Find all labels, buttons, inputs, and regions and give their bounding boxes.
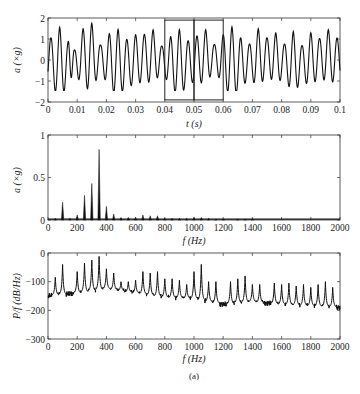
spectrum-peaks bbox=[48, 149, 340, 220]
y-tick-label: 0 bbox=[40, 216, 45, 226]
y-tick-label: 0 bbox=[40, 249, 45, 259]
x-tick-label: 0 bbox=[46, 223, 51, 233]
x-tick-label: 2000 bbox=[331, 342, 350, 352]
y-tick-label: −200 bbox=[25, 306, 45, 316]
x-tick-label: 400 bbox=[99, 223, 114, 233]
x-axis-label: f (Hz) bbox=[182, 235, 206, 247]
y-tick-label: −100 bbox=[25, 277, 45, 287]
spectrum-peak bbox=[113, 214, 115, 220]
y-axis-label: a (×g) bbox=[11, 46, 23, 73]
x-tick-label: 1400 bbox=[243, 342, 262, 352]
x-tick-label: 600 bbox=[128, 223, 143, 233]
y-tick-label: 1 bbox=[40, 35, 45, 45]
spectrum-peak bbox=[186, 218, 188, 220]
x-tick-label: 800 bbox=[158, 342, 173, 352]
amplitude-spectrum-plot: 020040060080010001200140016001800200000.… bbox=[11, 131, 350, 248]
spectrum-peak bbox=[171, 218, 173, 220]
y-tick-label: 0 bbox=[40, 56, 45, 66]
spectrum-peak bbox=[76, 215, 78, 220]
x-axis-label: t (s) bbox=[186, 118, 203, 130]
spectrum-peak bbox=[142, 215, 144, 220]
y-tick-label: −300 bbox=[25, 335, 45, 345]
figure: 00.010.020.030.040.050.060.070.080.090.1… bbox=[0, 0, 360, 394]
x-tick-label: 1000 bbox=[185, 223, 204, 233]
x-tick-label: 0.09 bbox=[302, 105, 319, 115]
spectrum-peak bbox=[91, 183, 93, 220]
y-axis-label: P/f (dB/Hz) bbox=[11, 272, 23, 319]
spectrum-peak bbox=[134, 217, 136, 220]
x-tick-label: 0.08 bbox=[273, 105, 290, 115]
x-tick-label: 0.01 bbox=[69, 105, 86, 115]
x-tick-label: 0.04 bbox=[156, 105, 173, 115]
x-tick-label: 0 bbox=[46, 342, 51, 352]
y-tick-label: −1 bbox=[35, 77, 45, 87]
y-axis-label: a (×g) bbox=[11, 166, 23, 193]
x-tick-label: 200 bbox=[70, 223, 85, 233]
x-axis-label: f (Hz) bbox=[182, 353, 206, 365]
x-tick-label: 0.07 bbox=[244, 105, 261, 115]
x-tick-label: 2000 bbox=[331, 223, 350, 233]
x-tick-label: 1200 bbox=[214, 342, 233, 352]
x-tick-label: 0.05 bbox=[186, 105, 203, 115]
x-tick-label: 1400 bbox=[243, 223, 262, 233]
x-tick-label: 0.06 bbox=[215, 105, 232, 115]
spectrum-peak bbox=[127, 217, 129, 220]
y-tick-label: 0.5 bbox=[33, 173, 45, 183]
spectrum-peak bbox=[193, 217, 195, 220]
x-tick-label: 400 bbox=[99, 342, 114, 352]
x-tick-label: 600 bbox=[128, 342, 143, 352]
x-tick-label: 800 bbox=[158, 223, 173, 233]
x-tick-label: 1800 bbox=[301, 342, 320, 352]
spectrum-peak bbox=[149, 216, 151, 220]
highlight-windows bbox=[165, 20, 223, 100]
psd-plot: 0200400600800100012001400160018002000−30… bbox=[11, 249, 350, 366]
x-tick-label: 1200 bbox=[214, 223, 233, 233]
spectrum-peak bbox=[178, 218, 180, 220]
x-tick-label: 1600 bbox=[272, 223, 291, 233]
x-tick-label: 200 bbox=[70, 342, 85, 352]
axis-ticks: 020040060080010001200140016001800200000.… bbox=[33, 131, 350, 234]
spectrum-peak bbox=[69, 218, 71, 220]
psd-line bbox=[48, 256, 340, 310]
y-tick-label: 2 bbox=[40, 14, 45, 24]
y-tick-label: −2 bbox=[35, 98, 45, 108]
x-tick-label: 0.03 bbox=[127, 105, 144, 115]
figure-caption: (a) bbox=[189, 371, 199, 381]
spectrum-peak bbox=[54, 218, 56, 220]
spectrum-peak bbox=[207, 218, 209, 220]
spectrum-peak bbox=[156, 216, 158, 220]
spectrum-peak bbox=[164, 218, 166, 220]
x-tick-label: 0.1 bbox=[334, 105, 346, 115]
spectrum-peak bbox=[61, 202, 63, 220]
spectrum-peak bbox=[83, 195, 85, 220]
x-tick-label: 0 bbox=[46, 105, 51, 115]
x-tick-label: 1600 bbox=[272, 342, 291, 352]
spectrum-peak bbox=[105, 206, 107, 220]
spectrum-peak bbox=[98, 149, 100, 220]
x-tick-label: 0.02 bbox=[98, 105, 115, 115]
axis-ticks: 0200400600800100012001400160018002000−30… bbox=[25, 249, 349, 353]
x-tick-label: 1800 bbox=[301, 223, 320, 233]
spectrum-peak bbox=[120, 217, 122, 220]
spectrum-peak bbox=[200, 217, 202, 220]
y-tick-label: 1 bbox=[40, 131, 45, 141]
time-signal-plot: 00.010.020.030.040.050.060.070.080.090.1… bbox=[11, 14, 346, 131]
x-tick-label: 1000 bbox=[185, 342, 204, 352]
